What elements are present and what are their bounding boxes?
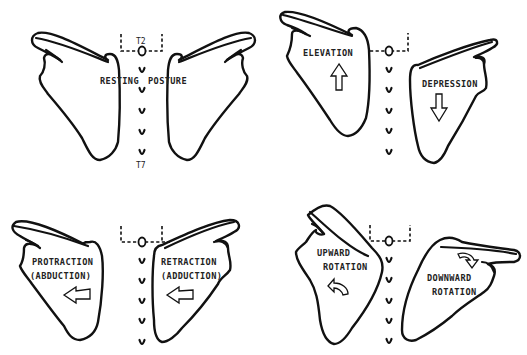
label-protraction: PROTRACTION <box>32 257 93 267</box>
depressed-scapula <box>410 40 497 163</box>
left-scapula <box>32 33 120 160</box>
t2-spinous-process <box>139 47 146 56</box>
label-resting: RESTING <box>100 76 139 86</box>
t2-spinous-process <box>386 237 393 246</box>
spinous-processes <box>387 258 392 343</box>
elevated-scapula <box>280 12 369 136</box>
label-downward: DOWNWARD <box>427 273 472 283</box>
label-upward-rotation: ROTATION <box>323 262 368 272</box>
right-scapula <box>167 33 255 160</box>
panel-resting-posture: T2 T7 RESTING POSTURE <box>32 33 255 170</box>
label-upward: UPWARD <box>317 248 350 258</box>
label-downward-rotation: ROTATION <box>432 287 477 297</box>
panel-elevation-depression: ELEVATION DEPRESSION <box>280 12 497 163</box>
spinous-processes <box>140 259 145 344</box>
retracted-scapula <box>153 220 239 342</box>
t2-spinous-process <box>139 238 146 247</box>
label-t7: T7 <box>136 161 146 170</box>
spinous-processes <box>387 68 392 154</box>
label-elevation: ELEVATION <box>303 48 353 58</box>
panel-protraction-retraction: PROTRACTION (ABDUCTION) RETRACTION (ADDU… <box>13 220 239 344</box>
spinous-processes <box>140 68 145 154</box>
label-retraction: RETRACTION <box>161 257 217 267</box>
label-abduction: (ABDUCTION) <box>30 271 91 281</box>
t2-spinous-process <box>386 47 393 56</box>
label-adduction: (ADDUCTION) <box>161 271 222 281</box>
label-t2: T2 <box>136 37 146 46</box>
scapular-movements-diagram: T2 T7 RESTING POSTURE ELEVATION DEPRESSI… <box>0 0 527 355</box>
label-posture: POSTURE <box>148 76 187 86</box>
label-depression: DEPRESSION <box>422 79 478 89</box>
panel-rotation: UPWARD ROTATION DOWNWARD ROTATION <box>296 205 520 344</box>
